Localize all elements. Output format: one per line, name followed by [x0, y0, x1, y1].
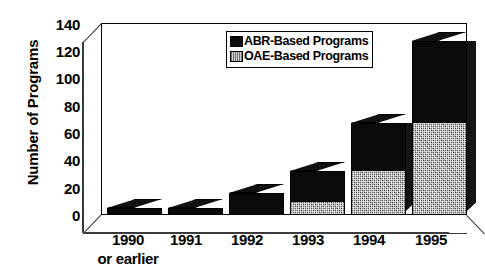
- x-tick-1992: 1992: [212, 232, 282, 248]
- bar-segment-abr-1991: [169, 209, 222, 214]
- legend-entry-oae[interactable]: OAE-Based Programs: [230, 49, 368, 64]
- bar-group-1995[interactable]: [412, 23, 467, 215]
- bar-front-1990: [107, 208, 162, 215]
- y-tick-20: 20: [28, 181, 80, 196]
- bar-group-1990[interactable]: [107, 23, 162, 215]
- bar-segment-abr-1994: [352, 124, 405, 170]
- bar-top-cap-1992: [229, 184, 284, 193]
- x-tick-1992-label: 1992: [231, 231, 263, 248]
- x-tick-1994-label: 1994: [353, 231, 385, 248]
- bar-segment-oae-1995: [413, 122, 466, 214]
- x-tick-1991: 1991: [151, 232, 221, 248]
- x-tick-1993-label: 1993: [292, 231, 324, 248]
- bar-top-cap-1991: [168, 199, 223, 208]
- x-tick-1995: 1995: [396, 232, 466, 248]
- y-tick-140: 140: [28, 17, 80, 32]
- bar-segment-oae-1994: [352, 170, 405, 214]
- bar-segment-abr-1993: [291, 172, 344, 201]
- x-axis-tick-labels: 1990 or earlier 1991 1992 1993 1994 1995: [83, 232, 475, 278]
- x-tick-1994: 1994: [334, 232, 404, 248]
- bar-top-cap-1995: [412, 32, 467, 41]
- plot-left-vertical-edge: [82, 42, 83, 233]
- legend: ABR-Based Programs OAE-Based Programs: [226, 31, 373, 68]
- bar-front-1994: [351, 123, 406, 215]
- bar-front-1992: [229, 193, 284, 215]
- y-tick-120: 120: [28, 44, 80, 59]
- y-tick-0: 0: [28, 208, 80, 223]
- x-tick-1990-label: 1990: [112, 231, 144, 248]
- y-tick-40: 40: [28, 153, 80, 168]
- bar-front-1993: [290, 171, 345, 215]
- bar-side-face-1995: [467, 41, 476, 211]
- legend-label-oae: OAE-Based Programs: [244, 50, 368, 63]
- bar-segment-abr-1992: [230, 194, 283, 214]
- bar-segment-oae-1993: [291, 201, 344, 214]
- legend-swatch-oae-icon: [230, 51, 243, 62]
- y-tick-80: 80: [28, 99, 80, 114]
- legend-swatch-abr-icon: [230, 36, 243, 47]
- legend-entry-abr[interactable]: ABR-Based Programs: [230, 34, 368, 49]
- x-tick-1991-label: 1991: [170, 231, 202, 248]
- bar-segment-abr-1990: [108, 209, 161, 214]
- y-axis-tick-labels: 140 120 100 80 60 40 20 0: [28, 0, 80, 278]
- legend-label-abr: ABR-Based Programs: [244, 35, 368, 48]
- bar-front-1991: [168, 208, 223, 215]
- x-tick-1995-label: 1995: [415, 231, 447, 248]
- x-tick-1993: 1993: [273, 232, 343, 248]
- y-tick-60: 60: [28, 126, 80, 141]
- y-tick-100: 100: [28, 71, 80, 86]
- bar-front-1995: [412, 41, 467, 215]
- bar-group-1991[interactable]: [168, 23, 223, 215]
- plot-left-wall: [83, 23, 102, 233]
- bar-segment-abr-1995: [413, 42, 466, 122]
- bar-top-cap-1993: [290, 162, 345, 171]
- bar-top-cap-1990: [107, 199, 162, 208]
- bar-top-cap-1994: [351, 114, 406, 123]
- x-tick-1990-sublabel: or earlier: [83, 251, 173, 267]
